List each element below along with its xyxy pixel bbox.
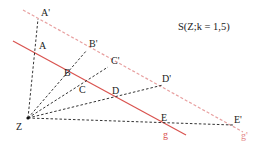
label-d-prime: D' — [162, 73, 171, 84]
ray-a — [28, 19, 38, 118]
label-a-prime: A' — [41, 7, 50, 18]
ray-e — [28, 118, 233, 125]
ray-d — [28, 85, 163, 118]
label-e-prime: E' — [234, 114, 242, 125]
diagram-title: S(Z;k = 1,5) — [178, 21, 230, 33]
label-c-prime: C' — [111, 55, 120, 66]
label-g: g — [163, 129, 168, 140]
label-e: E — [161, 112, 167, 123]
center-point-z — [26, 116, 29, 119]
label-c: C — [79, 84, 86, 95]
label-g-prime: g' — [241, 130, 248, 141]
label-b: B — [64, 67, 71, 78]
label-d: D — [112, 85, 119, 96]
stretching-diagram: A B C D E A' B' C' D' E' Z g g' S(Z;k = … — [0, 0, 258, 147]
label-z: Z — [16, 121, 22, 132]
label-a: A — [39, 40, 47, 51]
label-b-prime: B' — [89, 38, 98, 49]
rays — [28, 19, 233, 125]
